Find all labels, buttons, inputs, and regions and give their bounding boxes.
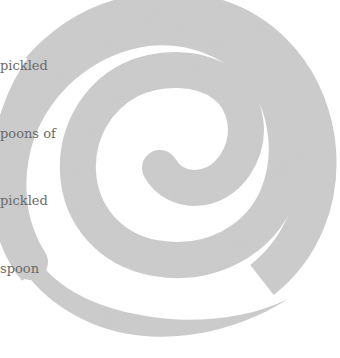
text-line: pickled <box>0 190 56 213</box>
text-fragment: pickled poons of pickled spoon <box>0 10 56 325</box>
text-line: pickled <box>0 55 56 78</box>
canvas: pickled poons of pickled spoon <box>0 0 340 358</box>
text-line: poons of <box>0 123 56 146</box>
text-line: spoon <box>0 258 56 281</box>
